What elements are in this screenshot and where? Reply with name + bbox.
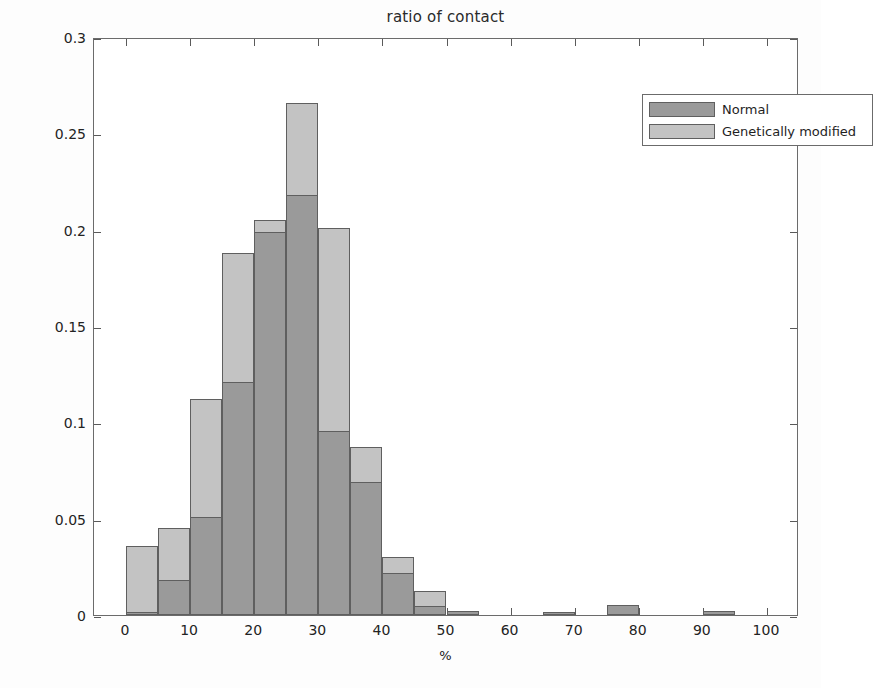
x-tick-label: 10 bbox=[180, 622, 198, 638]
y-tick-label: 0.25 bbox=[55, 126, 86, 142]
y-tick-mark bbox=[94, 521, 101, 522]
x-tick-mark bbox=[511, 608, 512, 615]
y-tick-label: 0.1 bbox=[64, 415, 86, 431]
histogram-bar bbox=[254, 232, 286, 615]
legend-swatch bbox=[649, 102, 715, 117]
x-axis-title: % bbox=[93, 648, 798, 663]
x-tick-label: 90 bbox=[693, 622, 711, 638]
y-tick-mark bbox=[790, 617, 797, 618]
y-tick-mark bbox=[94, 232, 101, 233]
y-tick-mark bbox=[790, 521, 797, 522]
x-tick-mark bbox=[254, 39, 255, 46]
x-tick-label: 100 bbox=[753, 622, 780, 638]
x-tick-label: 70 bbox=[565, 622, 583, 638]
x-tick-mark bbox=[318, 39, 319, 46]
histogram-bar bbox=[126, 546, 158, 615]
plot-area: NormalGenetically modified bbox=[93, 38, 798, 616]
y-tick-mark bbox=[94, 617, 101, 618]
histogram-bar bbox=[447, 611, 479, 615]
y-tick-mark bbox=[94, 328, 101, 329]
legend-item: Genetically modified bbox=[649, 121, 856, 141]
y-tick-mark bbox=[790, 39, 797, 40]
y-tick-mark bbox=[790, 232, 797, 233]
chart-title: ratio of contact bbox=[93, 8, 798, 26]
x-tick-label: 40 bbox=[372, 622, 390, 638]
x-tick-mark bbox=[639, 39, 640, 46]
y-axis-tick-labels: 00.050.10.150.20.250.3 bbox=[0, 38, 86, 616]
y-tick-label: 0.05 bbox=[55, 512, 86, 528]
y-tick-mark bbox=[790, 328, 797, 329]
x-tick-label: 30 bbox=[308, 622, 326, 638]
y-tick-mark bbox=[790, 424, 797, 425]
histogram-bar bbox=[222, 382, 254, 615]
histogram-bar bbox=[158, 580, 190, 615]
x-tick-mark bbox=[575, 39, 576, 46]
x-tick-label: 50 bbox=[437, 622, 455, 638]
legend-label: Normal bbox=[722, 102, 769, 117]
x-tick-mark bbox=[190, 39, 191, 46]
x-tick-mark bbox=[703, 39, 704, 46]
x-axis-tick-labels: 0102030405060708090100 bbox=[93, 622, 798, 644]
x-tick-label: 80 bbox=[629, 622, 647, 638]
y-tick-label: 0 bbox=[77, 608, 86, 624]
histogram-bar bbox=[543, 612, 575, 615]
x-tick-label: 60 bbox=[501, 622, 519, 638]
y-tick-mark bbox=[94, 135, 101, 136]
histogram-bar bbox=[382, 573, 414, 615]
x-tick-mark bbox=[447, 39, 448, 46]
histogram-bar bbox=[318, 431, 350, 615]
x-tick-mark bbox=[639, 608, 640, 615]
x-tick-mark bbox=[767, 39, 768, 46]
legend-item: Normal bbox=[649, 99, 769, 119]
histogram-bar bbox=[126, 612, 158, 615]
x-tick-mark bbox=[511, 39, 512, 46]
histogram-bar bbox=[607, 605, 639, 615]
y-tick-label: 0.2 bbox=[64, 223, 86, 239]
x-tick-mark bbox=[575, 608, 576, 615]
y-tick-mark bbox=[94, 39, 101, 40]
legend-box: NormalGenetically modified bbox=[642, 94, 873, 146]
x-tick-mark bbox=[382, 39, 383, 46]
histogram-bar bbox=[190, 517, 222, 615]
y-tick-label: 0.15 bbox=[55, 319, 86, 335]
y-tick-label: 0.3 bbox=[64, 30, 86, 46]
x-tick-label: 0 bbox=[121, 622, 130, 638]
histogram-bar bbox=[703, 611, 735, 615]
histogram-bar bbox=[414, 606, 446, 615]
histogram-bar bbox=[350, 482, 382, 615]
legend-swatch bbox=[649, 124, 715, 139]
x-tick-label: 20 bbox=[244, 622, 262, 638]
x-tick-mark bbox=[767, 608, 768, 615]
legend-label: Genetically modified bbox=[722, 124, 856, 139]
y-tick-mark bbox=[94, 424, 101, 425]
histogram-bar bbox=[286, 195, 318, 615]
x-tick-mark bbox=[126, 39, 127, 46]
